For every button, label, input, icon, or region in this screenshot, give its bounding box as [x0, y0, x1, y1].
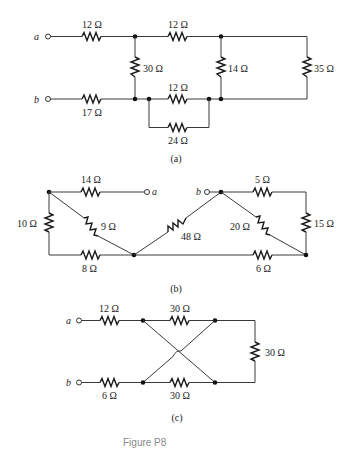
resistor-label: 12 Ω	[99, 303, 119, 314]
terminal-b-node	[46, 97, 51, 102]
terminal-b-node	[77, 380, 82, 385]
resistor-icon	[253, 188, 272, 196]
resistor-icon	[302, 213, 310, 232]
circuit-c: a 12 Ω 30 Ω 30 Ω b 6 Ω 30 Ω (c)	[66, 303, 285, 424]
resistor-label: 20 Ω	[230, 221, 250, 232]
resistor-label: 14 Ω	[228, 63, 248, 74]
resistor-icon	[100, 317, 119, 325]
resistor-icon	[82, 95, 101, 103]
resistor-label: 12 Ω	[168, 82, 188, 93]
resistor-label: 6 Ω	[102, 390, 117, 401]
sublabel-b: (b)	[170, 283, 182, 295]
junction-dot	[213, 380, 218, 385]
resistor-icon	[168, 33, 187, 41]
resistor-label: 8 Ω	[82, 263, 97, 274]
resistor-icon	[84, 217, 98, 236]
terminal-b-label: b	[196, 186, 201, 197]
resistor-label: 15 Ω	[314, 218, 334, 229]
terminal-b-label: b	[66, 377, 71, 388]
circuit-a: a 12 Ω 12 Ω 30 Ω 14 Ω 35 Ω b 17 Ω	[34, 19, 334, 165]
resistor-icon	[251, 342, 259, 361]
resistor-label: 6 Ω	[256, 263, 271, 274]
terminal-a-node	[77, 318, 82, 323]
junction-dot	[304, 253, 309, 258]
junction-dot	[219, 97, 224, 102]
circuit-b: a 14 Ω 10 Ω 9 Ω 8 Ω 48 Ω b 5 Ω	[17, 174, 334, 295]
junction-dot	[141, 380, 146, 385]
sublabel-c: (c)	[171, 412, 182, 424]
resistor-icon	[100, 379, 119, 387]
resistor-icon	[170, 379, 189, 387]
resistor-label: 30 Ω	[265, 347, 285, 358]
resistor-icon	[256, 216, 270, 235]
resistor-icon	[131, 57, 139, 77]
figure-p8: a 12 Ω 12 Ω 30 Ω 14 Ω 35 Ω b 17 Ω	[0, 0, 352, 449]
terminal-b-label: b	[34, 94, 39, 105]
resistor-label: 35 Ω	[314, 63, 334, 74]
resistor-label: 14 Ω	[81, 174, 101, 185]
terminal-a-node	[145, 190, 150, 195]
resistor-label: 30 Ω	[143, 63, 163, 74]
junction-dot	[133, 97, 138, 102]
resistor-icon	[81, 188, 100, 196]
terminal-a-label: a	[34, 31, 39, 42]
resistor-icon	[303, 57, 311, 77]
resistor-label: 24 Ω	[168, 135, 188, 146]
resistor-label: 12 Ω	[168, 19, 188, 30]
figure-caption: Figure P8	[123, 437, 167, 448]
resistor-label: 17 Ω	[82, 107, 102, 118]
resistor-label: 12 Ω	[82, 19, 102, 30]
terminal-a-label: a	[66, 315, 71, 326]
resistor-icon	[217, 57, 225, 77]
resistor-icon	[82, 33, 101, 41]
resistor-icon	[45, 213, 53, 232]
resistor-icon	[253, 251, 272, 259]
terminal-b-node	[205, 190, 210, 195]
resistor-label: 5 Ω	[255, 174, 270, 185]
resistor-label: 30 Ω	[170, 303, 190, 314]
resistor-icon	[81, 251, 100, 259]
resistor-label: 9 Ω	[101, 221, 116, 232]
sublabel-a: (a)	[170, 153, 181, 165]
resistor-label: 10 Ω	[17, 218, 37, 229]
resistor-icon	[170, 317, 189, 325]
resistor-icon	[168, 218, 186, 232]
resistor-icon	[168, 95, 187, 103]
terminal-a-label: a	[152, 186, 157, 197]
resistor-label: 48 Ω	[181, 231, 201, 242]
resistor-icon	[168, 124, 187, 132]
terminal-a-node	[46, 34, 51, 39]
resistor-label: 30 Ω	[170, 390, 190, 401]
